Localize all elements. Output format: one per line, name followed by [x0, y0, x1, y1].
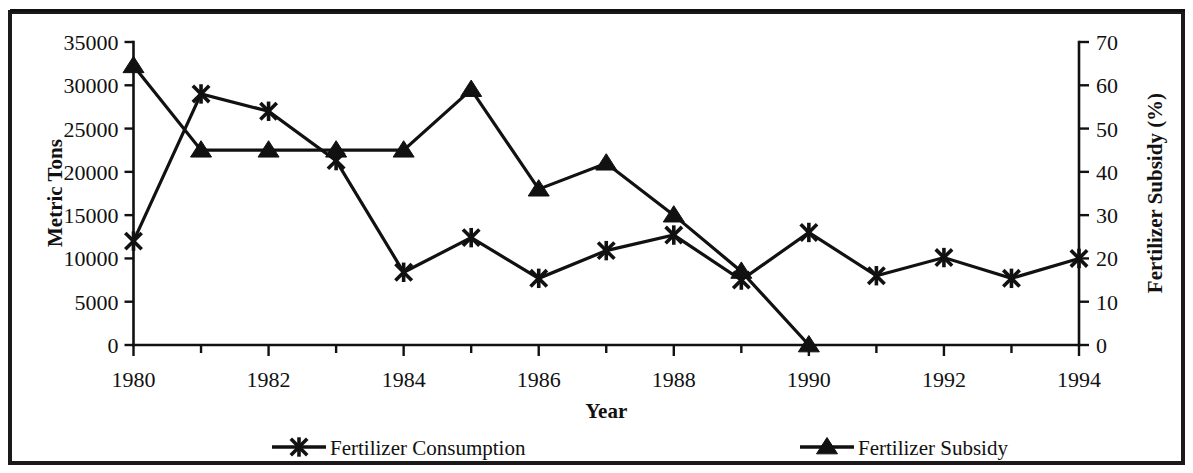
x-axis-tick-label: 1980 [112, 367, 156, 392]
y-axis-right-tick-label: 50 [1096, 117, 1118, 142]
y-axis-left-tick-label: 20000 [64, 160, 119, 185]
y-axis-left-tick-label: 25000 [64, 117, 119, 142]
x-axis-tick-label: 1984 [382, 367, 426, 392]
y-axis-right-tick-label: 40 [1096, 160, 1118, 185]
x-axis-tick-label: 1986 [517, 367, 561, 392]
data-point-marker [125, 231, 141, 250]
data-point-marker [123, 56, 144, 72]
y-axis-right-tick-label: 10 [1096, 290, 1118, 315]
data-point-marker [395, 263, 411, 282]
x-axis-tick-label: 1990 [787, 367, 831, 392]
line-chart-svg: 0500010000150002000025000300003500001020… [0, 0, 1193, 473]
y-axis-right-tick-label: 0 [1096, 333, 1107, 358]
data-point-marker [461, 80, 482, 96]
y-axis-right-tick-label: 60 [1096, 73, 1118, 98]
y-axis-left-tick-label: 0 [108, 333, 119, 358]
data-point-marker [463, 228, 479, 247]
legend-item-fertilizer-consumption: Fertilizer Consumption [272, 436, 526, 460]
y-axis-left-tick-label: 30000 [64, 73, 119, 98]
x-axis-tick-label: 1992 [922, 367, 966, 392]
data-point-marker [1003, 269, 1019, 288]
x-axis-tick-label: 1982 [247, 367, 291, 392]
y-axis-right-tick-label: 30 [1096, 203, 1118, 228]
series-fertilizer-consumption [125, 84, 1087, 290]
series-polyline [134, 66, 809, 345]
x-axis-tick-label: 1994 [1057, 367, 1101, 392]
x-axis-title: Year [585, 399, 627, 423]
y-axis-right-tick-label: 20 [1096, 246, 1118, 271]
figure-container: 0500010000150002000025000300003500001020… [0, 0, 1193, 473]
x-axis-tick-label: 1988 [652, 367, 696, 392]
y-axis-left-tick-label: 5000 [75, 290, 119, 315]
y-axis-left-title: Metric Tons [43, 139, 67, 247]
y-axis-left-tick-label: 35000 [64, 30, 119, 55]
y-axis-left-tick-label: 15000 [64, 203, 119, 228]
legend-label: Fertilizer Consumption [330, 436, 526, 460]
chart-plot-area: 0500010000150002000025000300003500001020… [0, 0, 1193, 473]
y-axis-left-tick-label: 10000 [64, 246, 119, 271]
legend-item-fertilizer-subsidy: Fertilizer Subsidy [800, 436, 1008, 460]
data-point-marker [531, 269, 547, 288]
y-axis-right-title: Fertilizer Subsidy (%) [1143, 93, 1167, 293]
legend-label: Fertilizer Subsidy [858, 436, 1008, 460]
y-axis-right-tick-label: 70 [1096, 30, 1118, 55]
data-point-marker [596, 154, 617, 170]
data-point-marker [801, 223, 817, 242]
